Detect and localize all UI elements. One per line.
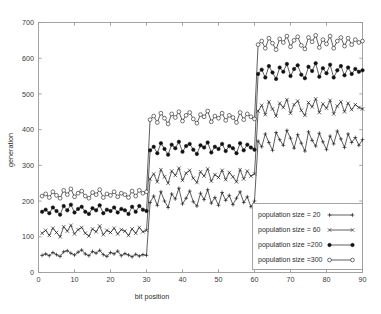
- open-circle-marker: [152, 114, 156, 118]
- open-circle-marker: [339, 36, 343, 40]
- filled-circle-marker: [62, 204, 65, 208]
- open-circle-marker: [332, 46, 336, 50]
- filled-circle-marker: [170, 143, 174, 147]
- filled-circle-marker: [328, 243, 332, 247]
- open-circle-marker: [51, 190, 55, 194]
- open-circle-marker: [263, 46, 267, 50]
- filled-circle-marker: [264, 76, 268, 80]
- filled-circle-marker: [181, 150, 185, 154]
- open-circle-marker: [83, 194, 87, 198]
- open-circle-marker: [321, 38, 325, 42]
- filled-circle-marker: [94, 209, 98, 213]
- x-axis-label: bit position: [135, 292, 169, 301]
- open-circle-marker: [112, 190, 116, 194]
- open-circle-marker: [44, 192, 48, 196]
- open-circle-marker: [195, 121, 199, 125]
- filled-circle-marker: [213, 145, 217, 149]
- legend-label: population size = 60: [258, 226, 321, 234]
- open-circle-marker: [80, 189, 84, 193]
- open-circle-marker: [227, 113, 231, 117]
- open-circle-marker: [184, 113, 188, 117]
- y-tick-label: 500: [22, 90, 34, 99]
- filled-circle-marker: [174, 146, 178, 150]
- filled-circle-marker: [202, 146, 206, 150]
- open-circle-marker: [289, 45, 293, 49]
- filled-circle-marker: [76, 207, 80, 211]
- filled-circle-marker: [267, 64, 271, 68]
- filled-circle-marker: [195, 152, 199, 156]
- filled-circle-marker: [188, 142, 192, 146]
- filled-circle-marker: [242, 149, 246, 153]
- x-tick-label: 0: [37, 275, 41, 284]
- open-circle-marker: [299, 43, 303, 47]
- open-circle-marker: [357, 41, 361, 45]
- filled-circle-marker: [105, 208, 109, 212]
- filled-circle-marker: [336, 69, 340, 73]
- filled-circle-marker: [210, 151, 214, 155]
- open-circle-marker: [260, 39, 264, 43]
- filled-circle-marker: [40, 210, 44, 214]
- open-circle-marker: [94, 193, 98, 197]
- open-circle-marker: [296, 35, 300, 39]
- filled-circle-marker: [159, 141, 163, 145]
- filled-circle-marker: [145, 209, 149, 213]
- open-circle-marker: [346, 36, 350, 40]
- open-circle-marker: [181, 119, 185, 123]
- filled-circle-marker: [206, 141, 210, 145]
- filled-circle-marker: [87, 212, 91, 216]
- open-circle-marker: [177, 110, 181, 114]
- filled-circle-marker: [350, 72, 354, 76]
- filled-circle-marker: [130, 205, 134, 209]
- open-circle-marker: [343, 44, 347, 48]
- x-tick-label: 50: [215, 275, 223, 284]
- open-circle-marker: [155, 121, 159, 125]
- open-circle-marker: [213, 114, 217, 118]
- open-circle-marker: [166, 122, 170, 126]
- open-circle-marker: [350, 43, 354, 47]
- filled-circle-marker: [177, 140, 181, 144]
- open-circle-marker: [317, 46, 321, 50]
- filled-circle-marker: [48, 211, 52, 215]
- open-circle-marker: [163, 116, 167, 120]
- open-circle-marker: [145, 190, 149, 194]
- filled-circle-marker: [138, 204, 142, 208]
- filled-circle-marker: [163, 147, 167, 151]
- open-circle-marker: [253, 117, 257, 121]
- open-circle-marker: [238, 111, 242, 115]
- filled-circle-marker: [346, 66, 350, 70]
- open-circle-marker: [206, 109, 210, 113]
- open-circle-marker: [202, 115, 206, 119]
- filled-circle-marker: [339, 64, 343, 68]
- y-tick-label: 200: [22, 197, 34, 206]
- open-circle-marker: [249, 115, 253, 119]
- x-tick-label: 20: [107, 275, 115, 284]
- legend-label: population size = 20: [258, 211, 321, 219]
- open-circle-marker: [116, 195, 120, 199]
- open-circle-marker: [148, 118, 152, 122]
- open-circle-marker: [188, 111, 192, 115]
- open-circle-marker: [220, 111, 224, 115]
- open-circle-marker: [170, 112, 174, 116]
- filled-circle-marker: [224, 149, 228, 153]
- filled-circle-marker: [357, 70, 361, 74]
- open-circle-marker: [328, 258, 332, 262]
- open-circle-marker: [98, 188, 102, 192]
- open-circle-marker: [40, 194, 44, 198]
- filled-circle-marker: [361, 69, 365, 73]
- open-circle-marker: [123, 193, 127, 197]
- line-chart-svg: 0100200300400500600700 01020304050607080…: [0, 0, 381, 314]
- filled-circle-marker: [51, 206, 55, 210]
- open-circle-marker: [361, 39, 365, 43]
- filled-circle-marker: [307, 65, 311, 69]
- filled-circle-marker: [166, 153, 170, 157]
- filled-circle-marker: [199, 144, 203, 148]
- open-circle-marker: [137, 188, 141, 192]
- open-circle-marker: [73, 195, 77, 199]
- open-circle-marker: [199, 113, 203, 117]
- y-tick-label: 0: [30, 268, 34, 277]
- open-circle-marker: [235, 121, 239, 125]
- chart-legend: population size = 20population size = 60…: [253, 204, 363, 270]
- open-circle-marker: [130, 189, 134, 193]
- open-circle-marker: [69, 187, 73, 191]
- filled-circle-marker: [66, 209, 70, 213]
